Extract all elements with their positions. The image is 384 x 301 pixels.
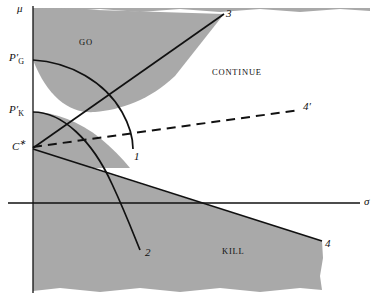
y-tick-label-pk: P′K bbox=[9, 104, 24, 118]
phase-diagram-figure: μ σ P′G P′K C∗ GO CONTINUE KILL 1 2 3 4 … bbox=[0, 0, 384, 301]
curve-label-1: 1 bbox=[134, 151, 140, 162]
x-axis-label: σ bbox=[364, 196, 369, 207]
curve-label-4: 4 bbox=[325, 238, 331, 249]
y-tick-pg-base: P bbox=[9, 51, 16, 63]
diagram-canvas bbox=[0, 0, 384, 301]
y-tick-pg-sub: G bbox=[18, 57, 24, 66]
curve-label-3: 3 bbox=[226, 8, 232, 19]
kill-region-shading bbox=[33, 150, 323, 292]
y-tick-pk-base: P bbox=[9, 103, 16, 115]
curve-label-4-prime: 4′ bbox=[303, 101, 311, 112]
y-axis-label: μ bbox=[17, 3, 23, 14]
y-tick-cstar-prime: ∗ bbox=[19, 138, 26, 147]
go-region-body bbox=[33, 8, 224, 112]
y-tick-label-pg: P′G bbox=[9, 52, 24, 66]
y-tick-pk-sub: K bbox=[18, 109, 24, 118]
region-label-continue: CONTINUE bbox=[212, 68, 262, 77]
curve-label-2: 2 bbox=[145, 247, 151, 258]
y-tick-label-cstar: C∗ bbox=[12, 139, 26, 152]
region-label-go: GO bbox=[79, 38, 93, 47]
region-label-kill: KILL bbox=[222, 247, 245, 256]
